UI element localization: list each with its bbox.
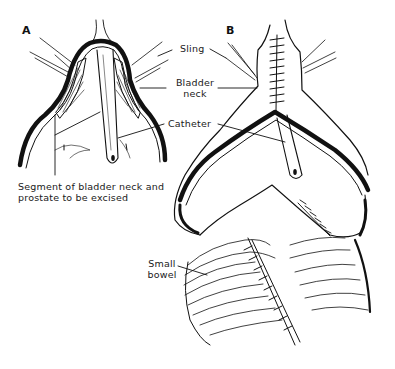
panel-b-small-bowel <box>184 237 370 345</box>
panel-b-outline-right <box>285 20 368 175</box>
label-segment-caption: Segment of bladder neck and prostate to … <box>18 181 164 203</box>
label-segment-line2: prostate to be excised <box>18 192 164 203</box>
label-segment-line1: Segment of bladder neck and <box>18 181 164 192</box>
panel-b-bowel-suture <box>244 238 300 345</box>
label-small-bowel-line1: Small <box>145 258 179 269</box>
panel-b-suture-line <box>270 35 284 112</box>
sling-leader-b <box>210 49 226 58</box>
panel-a-illustration <box>20 20 168 175</box>
panel-a-letter: A <box>22 24 31 37</box>
label-bladder-neck-line1: Bladder <box>172 77 218 88</box>
small-bowel-leader <box>178 266 207 275</box>
label-small-bowel-line2: bowel <box>145 269 179 280</box>
sling-leader-a <box>158 50 172 56</box>
panel-b-dome-suture <box>298 200 331 236</box>
panel-a-urethra-right <box>103 20 112 42</box>
label-small-bowel: Small bowel <box>145 258 179 280</box>
panel-a-urethra-left <box>92 20 97 42</box>
label-catheter: Catheter <box>168 118 211 129</box>
panel-b-illustration <box>174 20 370 345</box>
panel-b-bladder-dome <box>200 185 366 237</box>
surgical-diagram: A B Sling Bladder neck Catheter Segment … <box>0 0 395 369</box>
label-bladder-neck: Bladder neck <box>172 77 218 99</box>
label-bladder-neck-line2: neck <box>172 88 218 99</box>
panel-b-letter: B <box>226 24 234 37</box>
panel-b-outline-left <box>174 25 270 235</box>
panel-b-sling-right <box>302 40 336 73</box>
panel-a-sling-right <box>132 42 168 82</box>
panel-a-bladder-wall-outer <box>20 41 165 165</box>
panel-b-sling-left <box>226 43 257 80</box>
label-sling: Sling <box>180 43 204 54</box>
